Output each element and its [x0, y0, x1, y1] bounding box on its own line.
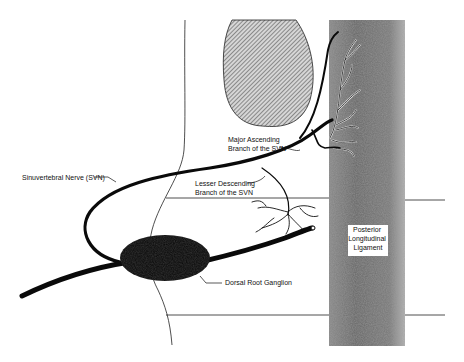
label-drg: Dorsal Root Ganglion — [225, 279, 292, 287]
label-major-branch: Major Ascending Branch of the SVN — [228, 136, 286, 152]
hatched-structure — [223, 20, 313, 127]
label-svn: Sinuvertebral Nerve (SVN) — [22, 174, 105, 182]
posterior-longitudinal-ligament — [329, 20, 405, 346]
label-pll: Posterior Longitudinal Ligament — [348, 226, 388, 252]
label-lesser-branch: Lesser Descending Branch of the SVN — [195, 180, 257, 196]
svn-anatomy-diagram: Major Ascending Branch of the SVN Sinuve… — [0, 0, 464, 362]
nerve-cut-end — [311, 226, 315, 230]
